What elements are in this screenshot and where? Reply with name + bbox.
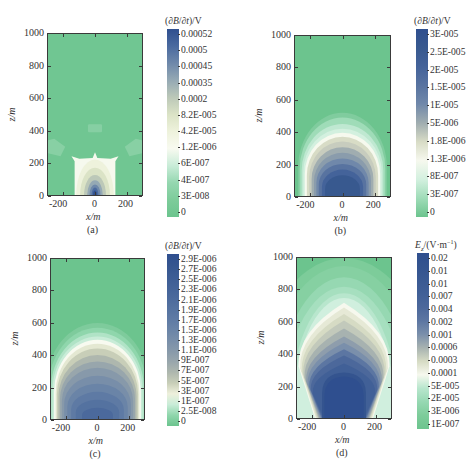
y-tick-mark: [387, 132, 390, 133]
y-tick-mark: [297, 289, 300, 290]
colorbar-label: 0.00035: [181, 78, 212, 88]
x-tick-mark: [310, 36, 311, 39]
colorbar-label: 0.01: [431, 266, 448, 276]
colorbar-tick: [428, 296, 430, 297]
colorbar-label: 0.002: [431, 317, 453, 327]
y-tick-mark: [388, 257, 391, 258]
colorbar-label: 1.8E-006: [430, 136, 465, 146]
colorbar-title-unit: )/V: [438, 15, 451, 26]
colorbar-title-unit: /(V·m: [424, 239, 447, 250]
y-tick-mark: [141, 323, 144, 324]
colorbar-tick: [428, 360, 430, 361]
x-tick-mark: [343, 36, 344, 39]
colorbar-label: 2.3E-006: [181, 284, 216, 294]
x-tick-label: 200: [120, 423, 135, 433]
colorbar-title: (∂B/∂t)/V: [165, 15, 202, 26]
x-tick-label: 0: [95, 423, 100, 433]
y-tick-mark: [139, 196, 142, 197]
colorbar-a: [167, 29, 179, 217]
colorbar-tick: [178, 411, 180, 412]
x-tick-label: 0: [92, 199, 97, 209]
x-axis-title: x/m: [86, 211, 100, 222]
colorbar-title: Ez/(V·m−1): [415, 239, 457, 253]
x-tick-mark: [375, 36, 376, 39]
colorbar-d: [417, 253, 429, 429]
y-tick-mark: [141, 388, 144, 389]
colorbar-tick: [178, 401, 180, 402]
x-tick-mark: [376, 415, 377, 418]
colorbar-title-unit: )/V: [189, 240, 202, 251]
colorbar-tick: [427, 194, 429, 195]
y-tick-mark: [139, 163, 142, 164]
y-tick-mark: [387, 67, 390, 68]
y-tick-mark: [51, 323, 54, 324]
colorbar-title-open: (∂: [165, 240, 173, 251]
y-tick-label: 400: [276, 127, 291, 137]
colorbar-title: (∂B/∂t)/V: [414, 15, 451, 26]
y-tick-label: 600: [276, 95, 291, 105]
panel-label: (c): [90, 448, 101, 459]
x-axis-title: x/m: [89, 435, 103, 446]
y-tick-mark: [48, 196, 51, 197]
x-tick-mark: [127, 34, 128, 37]
colorbar-tick: [178, 50, 180, 51]
y-tick-mark: [48, 66, 51, 67]
y-tick-mark: [297, 322, 300, 323]
x-tick-mark: [63, 192, 64, 195]
x-tick-mark: [343, 193, 344, 196]
x-tick-mark: [129, 259, 130, 262]
colorbar-tick: [178, 350, 180, 351]
plot-area-a: [47, 33, 143, 196]
colorbar-tick: [428, 347, 430, 348]
panel-label: (d): [336, 447, 348, 458]
colorbar-label: 0.0003: [431, 355, 457, 365]
colorbar-label: 6E-007: [181, 158, 209, 168]
y-tick-mark: [51, 355, 54, 356]
y-tick-label: 0: [286, 192, 291, 202]
y-tick-mark: [387, 100, 390, 101]
x-tick-label: 0: [341, 422, 346, 432]
y-tick-mark: [51, 258, 54, 259]
x-tick-mark: [98, 259, 99, 262]
y-tick-label: 400: [278, 349, 293, 359]
y-tick-mark: [388, 387, 391, 388]
colorbar-title-end: ): [453, 239, 456, 250]
colorbar-label: 4.2E-005: [181, 126, 216, 136]
colorbar-tick: [427, 70, 429, 71]
y-tick-label: 400: [32, 350, 47, 360]
y-tick-mark: [295, 35, 298, 36]
colorbar-tick: [427, 159, 429, 160]
y-tick-mark: [141, 290, 144, 291]
y-tick-mark: [141, 355, 144, 356]
x-tick-mark: [63, 34, 64, 37]
y-tick-label: 600: [32, 318, 47, 328]
panel-label: (a): [87, 224, 98, 235]
x-axis-title: x/m: [334, 212, 348, 223]
colorbar-tick: [428, 258, 430, 259]
colorbar-tick: [428, 271, 430, 272]
x-tick-label: -200: [298, 422, 316, 432]
colorbar-tick: [428, 335, 430, 336]
plot-area-b: [294, 35, 391, 197]
y-tick-label: 1000: [27, 253, 47, 263]
colorbar-tick: [178, 340, 180, 341]
colorbar-label: 2.5E-008: [181, 406, 216, 416]
y-tick-mark: [297, 387, 300, 388]
colorbar-tick: [428, 398, 430, 399]
colorbar-tick: [427, 34, 429, 35]
x-tick-label: 200: [367, 422, 382, 432]
colorbar-label: 5E-007: [181, 376, 209, 386]
x-tick-mark: [95, 34, 96, 37]
colorbar-label: 0: [430, 207, 435, 217]
colorbar-tick: [428, 284, 430, 285]
colorbar-tick: [428, 411, 430, 412]
y-tick-label: 200: [276, 160, 291, 170]
plot-area-c: [50, 258, 145, 420]
colorbar-label: 5E-005: [431, 381, 459, 391]
y-tick-label: 0: [288, 414, 293, 424]
panel-label: (b): [335, 225, 347, 236]
y-axis-title: z/m: [255, 331, 266, 345]
colorbar-tick: [178, 196, 180, 197]
y-tick-mark: [51, 388, 54, 389]
y-tick-mark: [388, 322, 391, 323]
